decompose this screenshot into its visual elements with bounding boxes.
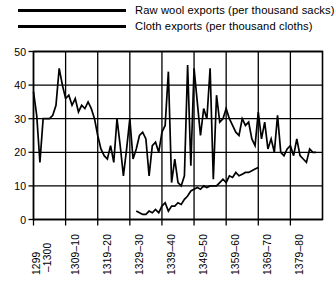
y-axis-tick-label-10: 10 (2, 181, 26, 191)
x-axis-tick-label-3: 1329–30 (134, 233, 145, 274)
x-axis-tick-label-7: 1369–70 (262, 233, 273, 274)
x-axis-tick-label-8: 1379–80 (294, 233, 305, 274)
y-axis-tick-label-40: 40 (2, 80, 26, 90)
x-axis-tick-label-0-line2: –1300 (42, 242, 53, 271)
x-axis-tick-label-0-line1: 1299 (31, 251, 42, 274)
y-axis-tick-label-50: 50 (2, 47, 26, 57)
chart-root: Raw wool exports (per thousand sacks) Cl… (0, 0, 336, 294)
y-axis-tick-label-20: 20 (2, 147, 26, 157)
x-axis-tick-label-6: 1359–60 (230, 233, 241, 274)
y-axis-tick-label-0: 0 (2, 215, 26, 225)
x-axis-tick-label-4: 1339–40 (166, 233, 177, 274)
x-axis-tick-label-5: 1349–50 (198, 233, 209, 274)
series-line-cloth (136, 167, 258, 214)
series-line-raw-wool (34, 65, 317, 186)
y-axis-tick-label-30: 30 (2, 114, 26, 124)
x-axis-tick-label-1: 1309–10 (70, 233, 81, 274)
x-axis-tick-label-2: 1319–20 (102, 233, 113, 274)
